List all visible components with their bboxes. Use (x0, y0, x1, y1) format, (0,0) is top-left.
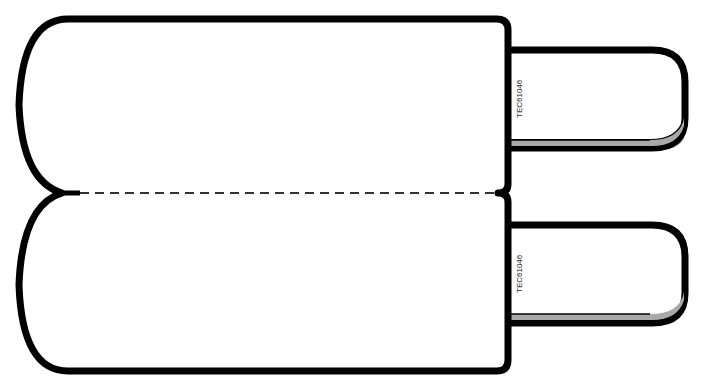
top-prong: TEC61046 (508, 50, 685, 150)
prong-label-bottom: TEC61046 (515, 254, 524, 293)
prong-label-top: TEC61046 (515, 79, 524, 118)
plug-body (19, 19, 508, 371)
bottom-prong: TEC61046 (508, 225, 685, 323)
plug-diagram: TEC61046 TEC61046 (0, 0, 703, 387)
